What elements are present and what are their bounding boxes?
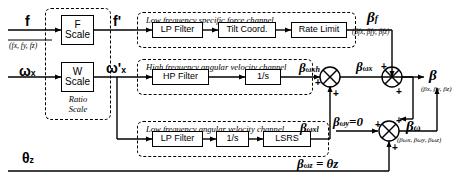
block-f-scale[interactable]: F Scale — [61, 15, 94, 45]
signal-label-f-prime: f' — [113, 13, 121, 29]
block-f-scale-line2: Scale — [65, 30, 90, 40]
label-beta: β — [429, 67, 437, 84]
scale-caption-line2: Scale — [60, 105, 96, 115]
block-tilt-coord[interactable]: Tilt Coord. — [218, 22, 276, 38]
label-beta-f-components: (βfx, βfy, βfz) — [352, 28, 390, 36]
block-rate-limit[interactable]: Rate Limit — [291, 22, 347, 38]
scale-caption: Ratio Scale — [60, 95, 96, 115]
sign-betawx-plus: + — [396, 115, 402, 126]
sign-betawz-plus: + — [392, 142, 398, 153]
block-w-scale[interactable]: W Scale — [61, 62, 94, 92]
sign-betawy-plus: + — [375, 119, 381, 130]
block-lp-filter-omega[interactable]: LP Filter — [152, 131, 203, 147]
label-beta-omega-z: βωz = θz — [297, 156, 338, 172]
label-beta-omega-y: βωy=0 — [333, 114, 363, 130]
input-label-f-components: (fx, fy, fz) — [9, 41, 37, 50]
sign-betawxh-plus: + — [315, 77, 321, 88]
label-beta-components: (βx, βy, βz) — [421, 85, 452, 93]
diagram-canvas: F Scale W Scale Ratio Scale Low frequenc… — [0, 0, 465, 183]
block-integrator-high[interactable]: 1/s — [245, 69, 281, 85]
label-beta-omega: βω — [406, 118, 420, 135]
label-beta-f: βf — [367, 9, 378, 26]
block-integrator-low[interactable]: 1/s — [216, 131, 249, 147]
sign-betaf-plus: + — [381, 61, 387, 72]
label-beta-omega-xl: βωxl — [300, 120, 319, 136]
input-label-theta-z: θz — [22, 150, 34, 166]
input-label-omega-x: ωx — [19, 63, 36, 79]
input-label-f: f — [25, 13, 30, 29]
block-w-scale-line2: Scale — [65, 77, 90, 87]
block-hp-filter[interactable]: HP Filter — [152, 69, 209, 85]
label-beta-omega-components: (βωx, βωy, βωz) — [397, 136, 441, 143]
signal-label-omega-prime-x: ω'x — [106, 60, 126, 76]
sign-betawxl-plus: + — [333, 88, 339, 99]
label-beta-omega-xh: βωxh — [299, 60, 320, 76]
sign-betaw-plus: + — [396, 86, 402, 97]
label-beta-omega-x: βωx — [356, 59, 373, 75]
block-lp-filter-force[interactable]: LP Filter — [152, 22, 203, 38]
